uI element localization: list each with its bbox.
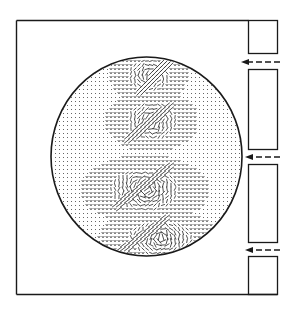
vortex-vector-strokes [82,59,212,255]
wall-block-2 [249,70,278,150]
background-vector-dots [55,65,240,242]
velocity-vector-field [55,59,240,255]
inlet-arrows [241,59,280,253]
wall-block-1 [249,21,278,54]
arrow-head-icon [245,154,253,160]
inlet-arrow-1 [241,59,280,65]
wall-block-4 [249,257,278,295]
arrow-head-icon [245,247,253,253]
inlet-arrow-2 [245,154,280,160]
vector-field-figure [0,0,297,312]
flow-diagram [0,0,297,312]
inlet-arrow-3 [245,247,280,253]
arrow-head-icon [241,59,249,65]
wall-block-3 [249,165,278,243]
